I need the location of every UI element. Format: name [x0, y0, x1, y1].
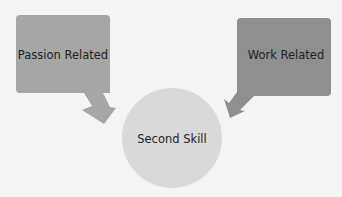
work-related-callout — [224, 18, 331, 118]
second-skill-label: Second Skill — [137, 132, 207, 146]
diagram-canvas — [0, 0, 342, 197]
passion-related-label: Passion Related — [18, 48, 108, 62]
work-related-label: Work Related — [248, 48, 324, 62]
passion-related-callout — [16, 15, 116, 124]
